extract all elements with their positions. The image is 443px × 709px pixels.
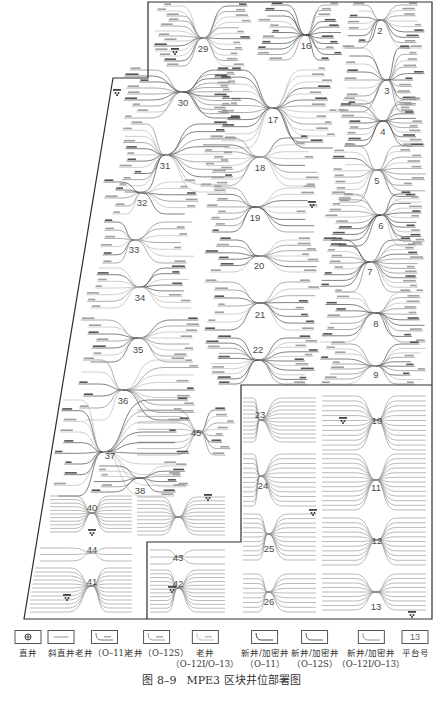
well-name-label xyxy=(410,285,417,287)
well-trajectory-line xyxy=(260,464,316,477)
well-name-label xyxy=(96,285,102,287)
legend-label-line2: （O–12I/O–13） xyxy=(171,659,239,670)
well-name-label xyxy=(404,334,411,336)
well-trajectory-line xyxy=(322,480,376,482)
platform-pad xyxy=(214,67,338,148)
legend-label: 新井/加密井 （O–11） xyxy=(241,648,289,669)
well-name-label xyxy=(93,345,106,347)
well-name-label xyxy=(333,232,345,234)
well-symbol-icon xyxy=(408,611,416,618)
well-name-label xyxy=(305,354,313,356)
well-name-label xyxy=(306,340,318,342)
well-name-label xyxy=(64,440,73,442)
well-name-label xyxy=(301,314,308,316)
well-trajectory-line xyxy=(53,452,103,485)
well-name-label xyxy=(113,211,120,213)
well-trajectory-line xyxy=(260,410,316,420)
well-name-label xyxy=(120,165,132,167)
well-trajectory-line xyxy=(260,282,311,303)
legend-label: 老井 （O–12I/O–13） xyxy=(171,648,239,669)
well-name-label xyxy=(214,156,223,158)
well-trajectory-line xyxy=(377,537,426,540)
well-trajectory-line xyxy=(83,360,123,390)
well-trajectory-line xyxy=(40,548,92,553)
well-name-label xyxy=(296,345,306,347)
well-trajectory-line xyxy=(376,477,426,480)
well-trajectory-line xyxy=(178,516,225,517)
well-symbol-icon xyxy=(204,494,212,501)
platform-number: 34 xyxy=(135,292,146,303)
well-name-label xyxy=(270,57,282,59)
well-name-label xyxy=(160,53,170,55)
well-name-label xyxy=(309,349,318,351)
well-name-label xyxy=(339,197,351,199)
platform-number: 38 xyxy=(135,485,146,496)
well-name-label xyxy=(116,187,123,189)
well-name-label xyxy=(263,35,274,37)
platform-pad xyxy=(206,185,318,232)
well-name-label xyxy=(172,265,185,267)
well-name-label xyxy=(164,3,171,5)
well-trajectory-line xyxy=(376,366,423,380)
platform-number: 9 xyxy=(373,369,378,380)
well-name-label xyxy=(176,380,188,382)
well-trajectory-line xyxy=(50,513,92,532)
well-name-label xyxy=(417,289,423,291)
well-name-label xyxy=(410,328,422,330)
well-name-label xyxy=(221,85,228,87)
well-name-label xyxy=(335,175,344,177)
well-trajectory-line xyxy=(178,517,225,520)
well-trajectory-line xyxy=(178,578,225,588)
well-trajectory-line xyxy=(92,510,132,513)
well-name-label xyxy=(214,121,227,123)
well-name-label xyxy=(116,203,125,205)
well-name-label xyxy=(168,479,176,481)
well-name-label xyxy=(207,204,217,206)
well-name-label xyxy=(215,287,228,289)
well-name-label xyxy=(132,121,142,123)
well-name-label xyxy=(65,472,77,474)
well-name-label xyxy=(126,146,137,148)
well-name-label xyxy=(401,289,411,291)
well-name-label xyxy=(310,91,321,93)
well-name-label xyxy=(315,97,327,99)
well-name-label xyxy=(125,97,137,99)
well-name-label xyxy=(322,8,331,10)
well-trajectory-line xyxy=(134,229,185,240)
well-trajectory-line xyxy=(258,343,318,360)
well-trajectory-line xyxy=(349,17,380,20)
platform-pad xyxy=(154,3,252,66)
well-name-label xyxy=(317,115,326,117)
well-trajectory-line xyxy=(377,170,425,191)
well-trajectory-line xyxy=(203,38,251,39)
well-trajectory-line xyxy=(50,510,92,513)
well-trajectory-line xyxy=(343,100,383,121)
well-trajectory-line xyxy=(260,420,316,430)
well-name-label xyxy=(178,397,188,399)
well-name-label xyxy=(140,79,148,81)
well-name-label xyxy=(331,2,338,4)
well-trajectory-line xyxy=(380,10,416,20)
well-trajectory-line xyxy=(336,170,377,190)
well-name-label xyxy=(128,85,139,87)
well-trajectory-line xyxy=(376,298,421,313)
platform-pad xyxy=(257,2,342,60)
well-name-label xyxy=(125,115,131,117)
legend-label: 直井 xyxy=(15,648,42,659)
well-trajectory-line xyxy=(178,550,225,557)
well-name-label xyxy=(169,472,180,474)
well-trajectory-line xyxy=(258,360,305,375)
well-name-label xyxy=(331,243,341,245)
well-symbol-icon xyxy=(309,509,317,516)
well-name-label xyxy=(208,319,215,321)
well-name-label xyxy=(187,323,199,325)
well-name-label xyxy=(218,82,230,84)
well-name-label xyxy=(305,156,314,158)
well-name-label xyxy=(298,243,311,245)
well-name-label xyxy=(214,94,226,96)
well-name-label xyxy=(104,179,113,181)
well-name-label xyxy=(296,307,304,309)
well-trajectory-line xyxy=(260,398,316,420)
well-trajectory-line xyxy=(178,557,225,564)
well-name-label xyxy=(216,223,225,225)
